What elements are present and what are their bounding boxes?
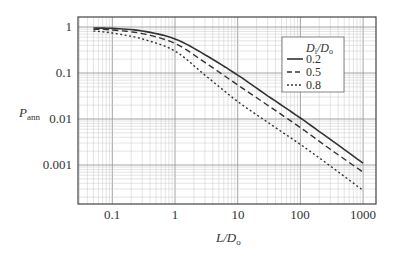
y-tick-label: 0.001 xyxy=(43,157,72,172)
x-tick-label: 0.1 xyxy=(104,207,120,222)
legend-label: 0.2 xyxy=(306,52,321,66)
x-tick-label: 10 xyxy=(232,207,245,222)
x-axis-title: L/Do xyxy=(215,230,241,247)
x-tick-label: 1 xyxy=(172,207,179,222)
y-tick-label: 0.1 xyxy=(56,65,72,80)
y-axis-title: Pann xyxy=(18,105,40,122)
y-tick-label: 1 xyxy=(66,19,73,34)
legend: Di/Do 0.2 0.5 0.8 xyxy=(282,37,344,92)
x-tick-label: 1000 xyxy=(350,207,376,222)
legend-label: 0.5 xyxy=(306,65,321,79)
x-tick-label: 100 xyxy=(290,207,310,222)
legend-label: 0.8 xyxy=(306,78,321,92)
chart: 1 0.1 0.01 0.001 0.1 1 10 100 1000 Pann … xyxy=(0,0,396,256)
y-tick-label: 0.01 xyxy=(49,111,72,126)
